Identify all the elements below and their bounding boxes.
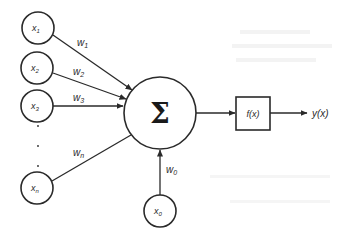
edge-xn-sum (52, 135, 131, 181)
input-node-x3: x3 (21, 90, 53, 122)
input-node-x2: x2 (21, 52, 53, 84)
weight-label-w3: w3 (73, 92, 84, 104)
activation-function-box: f(x) (236, 97, 270, 130)
weight-label-w1: w1 (77, 37, 88, 49)
weight-label-wn: wn (73, 147, 84, 159)
edge-x2-sum (53, 73, 126, 99)
output-label: y(x) (311, 108, 329, 119)
weight-label-w0: w0 (166, 164, 177, 176)
input-node-xn: xn (21, 172, 53, 204)
bias-node-x0: x0 (144, 195, 176, 227)
weight-label-w2: w2 (73, 66, 84, 78)
sigma-icon: Σ (150, 97, 170, 130)
ellipsis-dots (37, 125, 39, 167)
summation-node: Σ (124, 77, 196, 149)
svg-text:f(x): f(x) (247, 109, 260, 119)
input-node-x1: x1 (22, 12, 54, 44)
edge-x1-sum (53, 35, 132, 90)
neuron-diagram: w1 w2 w3 wn w0 x1 x2 x3 xn x0 Σ (0, 0, 346, 238)
